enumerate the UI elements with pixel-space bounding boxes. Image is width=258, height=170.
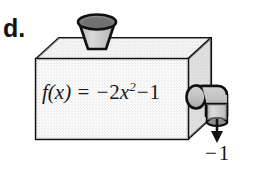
- output-value-minus: −: [205, 141, 219, 165]
- formula-equals: =: [76, 80, 90, 104]
- formula-second-minus: −: [136, 80, 150, 104]
- formula-leading-minus: −: [96, 80, 110, 104]
- box-top-face: [36, 38, 211, 59]
- formula-fx: f(x): [42, 80, 71, 104]
- formula-coefficient: 2: [109, 80, 120, 104]
- formula-exponent: 2: [129, 79, 136, 94]
- output-value-number: 1: [219, 141, 230, 165]
- output-value-label: −1: [205, 143, 229, 164]
- function-rule-formula: f(x) = −2x2−1: [42, 82, 178, 103]
- figure-canvas: d.: [0, 0, 258, 170]
- formula-variable: x: [120, 80, 129, 104]
- formula-constant: 1: [150, 80, 161, 104]
